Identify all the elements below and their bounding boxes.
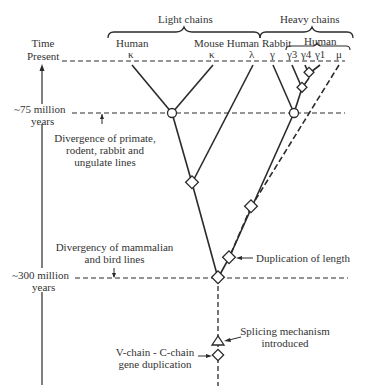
divergency-mammal-line1: Divergency of mammalian: [52, 241, 177, 253]
heavy-chains-label: Heavy chains: [280, 13, 340, 25]
splicing-line2: introduced: [240, 337, 330, 349]
chain-gamma3: γ3: [287, 48, 297, 60]
t300-years: years: [32, 281, 55, 293]
node-diamond-vc: [212, 349, 223, 360]
chain-lambda: λ: [249, 48, 254, 60]
vc-dup-line2: gene duplication: [112, 358, 198, 370]
node-circle-light: [168, 109, 177, 118]
splicing-line1: Splicing mechanism: [240, 325, 330, 337]
chain-gamma4: γ4: [301, 48, 311, 60]
chain-kappa-human: κ: [128, 48, 134, 60]
chain-gamma1: γ1: [315, 48, 325, 60]
node-diamond-mu: [245, 200, 258, 213]
duplication-length-label: Duplication of length: [256, 252, 350, 264]
t75-label: ~75 million: [14, 103, 65, 115]
time-arrow-icon: [40, 64, 45, 71]
light-chains-label: Light chains: [158, 13, 213, 25]
divergency-mammal-line2: and bird lines: [52, 253, 177, 265]
node-diamond-root: [212, 271, 225, 284]
node-circle-heavy: [290, 109, 299, 118]
t300-label: ~300 million: [12, 269, 69, 281]
vc-dup-line1: V-chain - C-chain: [112, 346, 198, 358]
divergence-primate-line3: ungulate lines: [50, 156, 160, 168]
chain-kappa-mouse: κ: [209, 48, 215, 60]
node-diamond-light: [186, 176, 199, 189]
node-triangle-splicing: [212, 336, 224, 345]
time-label: Time: [26, 37, 60, 49]
divergence-primate-line1: Divergence of primate,: [50, 132, 160, 144]
chain-gamma-rabbit: γ: [270, 48, 275, 60]
node-diamond-g1g4: [304, 67, 314, 77]
chain-mu: μ: [336, 48, 342, 60]
present-label: Present: [27, 50, 59, 62]
node-diamond-duplication: [223, 251, 236, 264]
divergence-primate-line2: rodent, rabbit and: [50, 144, 160, 156]
t75-years: years: [31, 115, 54, 127]
human-heavy-label: Human: [304, 35, 336, 47]
